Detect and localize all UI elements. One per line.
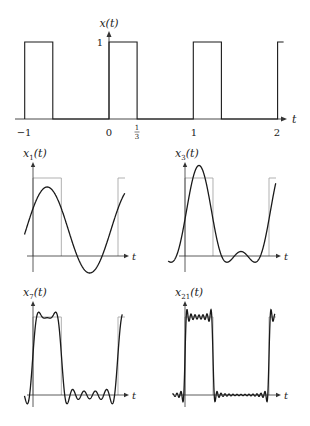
y-axis-arrow-icon <box>31 301 35 306</box>
y-label: x1(t) <box>23 147 47 162</box>
panel-x1: x1(t)t <box>23 147 137 273</box>
panel-x7: x7(t)t <box>23 286 137 407</box>
t-axis-arrow-icon <box>276 254 281 258</box>
fourier-partial-sum-curve <box>25 187 125 273</box>
t-axis-arrow-icon <box>276 393 281 397</box>
top-square-wave <box>25 42 284 119</box>
fourier-partial-sum-curve <box>25 312 123 404</box>
top-y-label: x(t) <box>99 17 118 30</box>
fourier-partial-sum-curve <box>168 165 276 262</box>
top-x-tick-minus1: −1 <box>17 127 32 138</box>
t-axis-arrow-icon <box>124 393 129 397</box>
square-wave-overlay <box>33 317 125 395</box>
square-wave-overlay <box>185 317 276 395</box>
top-x-label: t <box>292 113 297 126</box>
fourier-partial-sum-curve <box>172 310 274 402</box>
t-label: t <box>284 390 289 401</box>
panel-x3: x3(t)t <box>168 147 289 272</box>
y-axis-arrow-icon <box>183 301 187 306</box>
top-plot: x(t) 1 t −1 0 1 3 1 2 <box>15 17 297 141</box>
t-label: t <box>132 251 137 262</box>
y-axis-arrow-icon <box>31 162 35 167</box>
y-label: x21(t) <box>175 286 203 301</box>
top-x-tick-third-den: 3 <box>135 133 139 141</box>
y-label: x7(t) <box>23 286 47 301</box>
top-y-axis-arrow-icon <box>107 31 112 37</box>
y-label: x3(t) <box>175 147 199 162</box>
top-x-tick-0: 0 <box>106 127 112 138</box>
top-t-axis-arrow-icon <box>281 117 287 122</box>
panel-x21: x21(t)t <box>172 286 289 407</box>
t-label: t <box>284 251 289 262</box>
top-y-tick-1: 1 <box>97 37 103 48</box>
t-label: t <box>132 390 137 401</box>
t-axis-arrow-icon <box>124 254 129 258</box>
top-x-tick-1: 1 <box>191 127 197 138</box>
fourier-figure: x(t) 1 t −1 0 1 3 1 2 x1(t)t x3(t)t x7(t… <box>0 0 310 426</box>
y-axis-arrow-icon <box>183 162 187 167</box>
top-x-tick-third-num: 1 <box>135 124 139 132</box>
square-wave-overlay <box>185 178 276 256</box>
square-wave-overlay <box>33 178 125 256</box>
top-x-tick-2: 2 <box>274 127 280 138</box>
